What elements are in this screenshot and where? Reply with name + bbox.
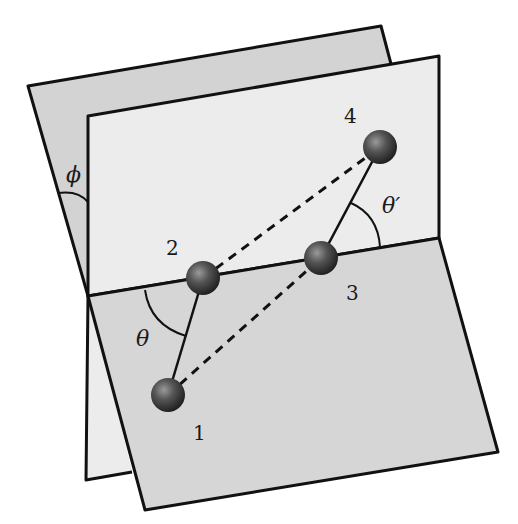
atom-2	[186, 261, 220, 295]
atom-1	[151, 378, 185, 412]
atom-label-2: 2	[166, 236, 179, 260]
atom-3	[304, 241, 338, 275]
phi-label: ϕ	[66, 162, 81, 187]
dihedral-diagram: 1 2 3 4 ϕ θ θ′	[0, 0, 518, 524]
atom-label-3: 3	[346, 281, 359, 305]
theta-label: θ	[136, 326, 149, 351]
theta-prime-label: θ′	[382, 193, 400, 218]
atom-label-4: 4	[344, 104, 357, 128]
atom-label-1: 1	[193, 421, 206, 445]
atom-4	[363, 130, 397, 164]
